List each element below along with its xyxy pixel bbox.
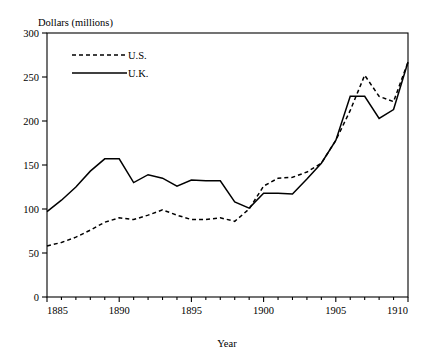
x-tick-label: 1890 — [109, 305, 130, 316]
x-axis-title: Year — [217, 338, 237, 349]
x-tick-label: 1910 — [387, 305, 408, 316]
chart-container: Dollars (millions) 050100150200250300 18… — [0, 0, 433, 364]
y-tick-label: 200 — [23, 116, 39, 127]
y-tick-label: 300 — [23, 28, 39, 39]
y-tick-label: 250 — [23, 72, 39, 83]
y-tick-label: 50 — [29, 248, 40, 259]
series-line-us — [47, 62, 408, 246]
y-tick-label: 100 — [23, 204, 39, 215]
x-tick-label: 1885 — [47, 305, 68, 316]
y-axis-title: Dollars (millions) — [38, 17, 113, 29]
y-tick-label: 150 — [23, 160, 39, 171]
series-line-uk — [47, 62, 408, 212]
line-chart: Dollars (millions) 050100150200250300 18… — [0, 0, 433, 364]
x-tick-label: 1905 — [325, 305, 346, 316]
x-axis: 188518901895190019051910 — [47, 297, 408, 316]
legend-label-us: U.S. — [128, 50, 147, 61]
x-tick-label: 1900 — [253, 305, 274, 316]
data-series-group — [47, 62, 408, 246]
y-tick-label: 0 — [34, 292, 39, 303]
x-tick-label: 1895 — [181, 305, 202, 316]
chart-legend: U.S.U.K. — [72, 50, 148, 79]
y-axis: 050100150200250300 — [23, 28, 47, 303]
legend-label-uk: U.K. — [128, 68, 148, 79]
